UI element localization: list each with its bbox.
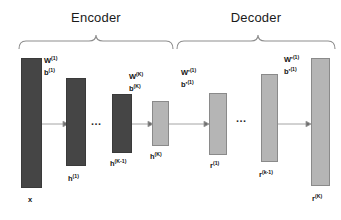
layer-label-r1-sup: (1)	[213, 160, 219, 166]
param-weight-wprime-last: W'	[284, 55, 293, 64]
layer-label-hk: h(K)	[150, 152, 162, 161]
section-brackets	[0, 0, 341, 220]
param-weight-sup-wprime1: (1)	[190, 67, 196, 73]
param-label-bprime1: b'(1)	[181, 80, 194, 89]
layer-bar-hk-minus-1	[112, 94, 132, 153]
layer-label-rk: r(K)	[312, 194, 322, 203]
decoder-section-title: Decoder	[216, 10, 296, 25]
layer-label-hk-sup: (K)	[155, 151, 162, 157]
layer-label-rk-minus-1-sup: (k-1)	[262, 169, 273, 175]
param-bias-sup-bprime-last: (1)	[290, 66, 296, 72]
param-weight-sup-wk: (K)	[136, 71, 143, 77]
layer-bar-rk-minus-1	[261, 74, 278, 162]
encoder-section-title: Encoder	[56, 10, 136, 25]
ellipsis-decoder: ...	[236, 112, 247, 124]
param-label-wk: W(K)	[129, 72, 143, 81]
layer-bar-rk	[311, 58, 330, 186]
param-weight-sup-wprime-last: (1)	[293, 54, 299, 60]
layer-label-rk-sup: (K)	[315, 193, 322, 199]
param-label-w1: W(1)	[44, 56, 57, 65]
layer-label-rk-minus-1: r(k-1)	[259, 170, 273, 179]
layer-bar-h1	[66, 78, 86, 166]
param-bias-sup-bprime1: (1)	[187, 79, 193, 85]
layer-bar-r1	[209, 93, 227, 155]
param-label-wprime-last: W'(1)	[284, 55, 299, 64]
param-weight-sup-w1: (1)	[51, 55, 57, 61]
param-weight-wprime1: W'	[181, 68, 190, 77]
param-bias-sup-b1: (1)	[49, 67, 55, 73]
layer-bar-hk	[152, 101, 169, 146]
layer-label-h1: h(1)	[68, 174, 79, 183]
autoencoder-diagram: Encoder Decoder ... ... W(1) b(1) W(K) b…	[0, 0, 341, 220]
param-label-b1: b(1)	[44, 68, 55, 77]
encoder-bracket	[19, 35, 173, 49]
layer-label-input-text: x	[28, 195, 32, 204]
layer-label-input: x	[28, 195, 32, 204]
param-label-wprime1: W'(1)	[181, 68, 196, 77]
param-label-bk: b(K)	[129, 84, 141, 93]
layer-bar-input	[21, 58, 42, 188]
layer-label-hk-minus-1-sup: (K-1)	[115, 158, 127, 164]
ellipsis-encoder: ...	[91, 115, 102, 127]
layer-label-hk-minus-1: h(K-1)	[110, 159, 126, 168]
layer-label-r1: r(1)	[210, 161, 219, 170]
layer-label-h1-sup: (1)	[73, 173, 79, 179]
decoder-bracket	[177, 35, 335, 49]
param-bias-sup-bk: (K)	[134, 83, 141, 89]
param-label-bprime-last: b'(1)	[284, 67, 297, 76]
